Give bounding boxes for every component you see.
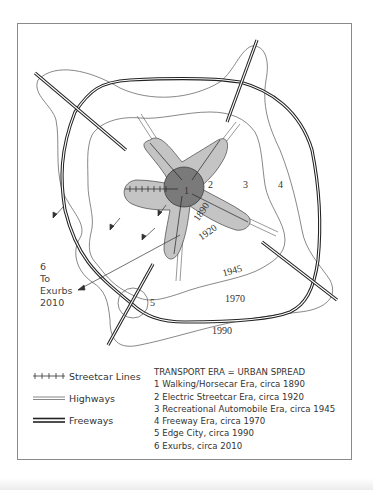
era-legend: TRANSPORT ERA = URBAN SPREAD 1 Walking/H… xyxy=(154,366,335,452)
exurb-to: To xyxy=(40,273,73,285)
label-zone-4: 4 xyxy=(278,179,283,190)
legend-freeways: Freeways xyxy=(33,409,141,431)
era-item-6: 6 Exurbs, circa 2010 xyxy=(154,440,335,452)
symbol-legend: Streetcar Lines Highways Freeways xyxy=(33,365,141,431)
label-year-1945: 1945 xyxy=(221,263,243,279)
legend-highways: Highways xyxy=(33,387,141,409)
label-zone-2: 2 xyxy=(208,179,213,190)
era-item-2: 2 Electric Streetcar Era, circa 1920 xyxy=(154,391,335,403)
label-zone-1: 1 xyxy=(184,185,189,196)
label-zone-3: 3 xyxy=(243,179,248,190)
page-bottom-band xyxy=(0,478,373,490)
label-zone-5: 5 xyxy=(150,297,155,308)
exurb-text: Exurbs xyxy=(40,285,73,297)
streetcar-line-icon xyxy=(33,372,65,380)
exurb-label: 6 To Exurbs 2010 xyxy=(40,261,73,309)
legend-highways-label: Highways xyxy=(69,393,115,404)
highway-line-icon xyxy=(33,394,65,402)
era-legend-title: TRANSPORT ERA = URBAN SPREAD xyxy=(154,366,335,378)
era-item-3: 3 Recreational Automobile Era, circa 194… xyxy=(154,403,335,415)
legend-freeways-label: Freeways xyxy=(69,415,113,426)
freeway-line-icon xyxy=(33,416,65,424)
era-item-4: 4 Freeway Era, circa 1970 xyxy=(154,415,335,427)
era-item-5: 5 Edge City, circa 1990 xyxy=(154,427,335,439)
label-year-1970: 1970 xyxy=(225,293,245,304)
exurb-number: 6 xyxy=(40,261,73,273)
legend-streetcar: Streetcar Lines xyxy=(33,365,141,387)
label-year-1990: 1990 xyxy=(212,325,232,336)
exurb-year: 2010 xyxy=(40,297,73,309)
legend-streetcar-label: Streetcar Lines xyxy=(69,371,141,382)
label-year-1920: 1920 xyxy=(196,222,219,242)
era-item-1: 1 Walking/Horsecar Era, circa 1890 xyxy=(154,378,335,390)
